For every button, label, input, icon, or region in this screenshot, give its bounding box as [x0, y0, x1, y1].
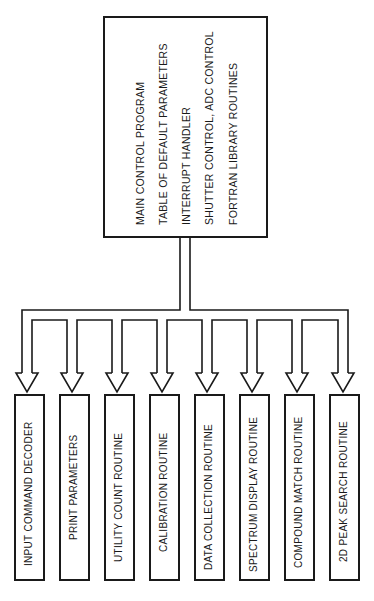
- main-line-shutter-adc-control: SHUTTER CONTROL, ADC CONTROL: [203, 31, 215, 225]
- arrowhead-5: [196, 373, 218, 392]
- bus-outer-right: [190, 236, 348, 373]
- bus-inner-3: [122, 320, 157, 373]
- module-calibration-routine: CALIBRATION ROUTINE: [149, 394, 180, 581]
- module-utility-count-routine: UTILITY COUNT ROUTINE: [104, 394, 135, 581]
- module-label: CALIBRATION ROUTINE: [158, 433, 170, 552]
- module-label: UTILITY COUNT ROUTINE: [113, 433, 125, 562]
- module-compound-match-routine: COMPOUND MATCH ROUTINE: [284, 394, 315, 581]
- arrowhead-4: [151, 373, 173, 392]
- arrowhead-1: [16, 373, 38, 392]
- bus-inner-4: [167, 320, 202, 373]
- module-data-collection-routine: DATA COLLECTION ROUTINE: [194, 394, 225, 581]
- module-2d-peak-search-routine: 2D PEAK SEARCH ROUTINE: [329, 394, 360, 581]
- program-structure-diagram: MAIN CONTROL PROGRAM TABLE OF DEFAULT PA…: [0, 0, 374, 601]
- module-print-parameters: PRINT PARAMETERS: [59, 394, 90, 581]
- main-line-fortran-library-routines: FORTRAN LIBRARY ROUTINES: [227, 63, 239, 225]
- arrowhead-8: [332, 373, 354, 392]
- module-label: DATA COLLECTION ROUTINE: [203, 424, 215, 570]
- bus-inner-5: [212, 320, 247, 373]
- module-spectrum-display-routine: SPECTRUM DISPLAY ROUTINE: [239, 394, 270, 581]
- arrowhead-2: [61, 373, 83, 392]
- main-line-table-of-default-parameters: TABLE OF DEFAULT PARAMETERS: [157, 43, 169, 225]
- module-input-command-decoder: INPUT COMMAND DECODER: [14, 394, 45, 581]
- module-label: COMPOUND MATCH ROUTINE: [293, 417, 305, 568]
- module-label: SPECTRUM DISPLAY ROUTINE: [248, 417, 260, 572]
- bus-inner-1: [32, 320, 67, 373]
- main-line-main-control-program: MAIN CONTROL PROGRAM: [134, 82, 146, 225]
- arrowhead-7: [286, 373, 308, 392]
- module-label: 2D PEAK SEARCH ROUTINE: [338, 421, 350, 562]
- module-label: INPUT COMMAND DECODER: [23, 422, 35, 566]
- arrowhead-6: [241, 373, 263, 392]
- bus-inner-2: [77, 320, 112, 373]
- main-control-module: MAIN CONTROL PROGRAM TABLE OF DEFAULT PA…: [103, 16, 268, 238]
- arrowhead-3: [106, 373, 128, 392]
- bus-inner-7: [302, 320, 338, 373]
- module-label: PRINT PARAMETERS: [68, 434, 80, 540]
- bus-inner-6: [257, 320, 292, 373]
- main-line-interrupt-handler: INTERRUPT HANDLER: [180, 107, 192, 225]
